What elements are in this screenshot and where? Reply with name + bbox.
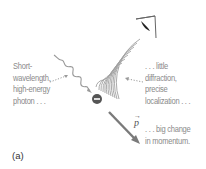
diffraction-arcs-icon: [96, 39, 140, 99]
photon-label-line: photon . . .: [13, 96, 51, 108]
photon-label-line: wavelength,: [13, 73, 51, 85]
photon-label: Short- wavelength, high-energy photon . …: [13, 61, 51, 107]
momentum-label-line: . . . big change: [145, 124, 190, 136]
diffraction-label-line: localization . . .: [145, 96, 190, 108]
momentum-symbol: p: [134, 117, 139, 128]
momentum-label-line: in momentum.: [145, 136, 190, 148]
panel-label: (a): [12, 150, 24, 161]
photon-wave-icon: [54, 55, 92, 93]
figure-canvas: Short- wavelength, high-energy photon . …: [0, 0, 206, 169]
diffraction-label-line: precise: [145, 84, 190, 96]
diffraction-pointer-icon: [125, 77, 143, 82]
photon-label-line: Short-: [13, 61, 51, 73]
photon-pointer-icon: [50, 75, 68, 82]
momentum-label: . . . big change in momentum.: [145, 124, 190, 147]
electron-icon: [92, 94, 102, 104]
photon-label-line: high-energy: [13, 84, 51, 96]
diffraction-label-line: . . . little: [145, 61, 190, 73]
eye-icon: [136, 16, 156, 38]
diffraction-label: . . . little diffraction, precise locali…: [145, 61, 190, 107]
diffraction-label-line: diffraction,: [145, 73, 190, 85]
